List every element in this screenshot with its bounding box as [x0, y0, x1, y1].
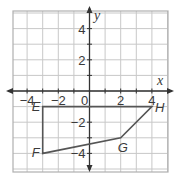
x-axis-label: x	[156, 73, 164, 88]
x-tick-label: 0	[81, 93, 88, 108]
vertex-label-E: E	[32, 99, 41, 114]
y-tick-label: −2	[71, 115, 86, 130]
vertex-label-G: G	[118, 140, 128, 155]
y-tick-label: 4	[78, 22, 85, 37]
coordinate-plane: −4−202442−2−4 x y EFGH	[0, 0, 176, 174]
x-tick-label: −2	[51, 93, 66, 108]
x-axis-right-arrow-icon	[167, 88, 174, 94]
polygon-EFGH	[43, 107, 152, 154]
y-tick-label: −4	[71, 146, 86, 161]
y-axis-up-arrow-icon	[87, 6, 93, 13]
x-axis-left-arrow-icon	[6, 88, 13, 94]
vertex-label-H: H	[155, 100, 165, 115]
y-axis-label: y	[92, 8, 101, 23]
y-tick-label: 2	[78, 53, 85, 68]
x-tick-label: 2	[117, 93, 124, 108]
vertex-label-F: F	[32, 145, 41, 160]
